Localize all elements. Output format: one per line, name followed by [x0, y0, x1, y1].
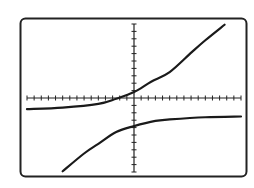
graph-screen	[0, 0, 254, 188]
